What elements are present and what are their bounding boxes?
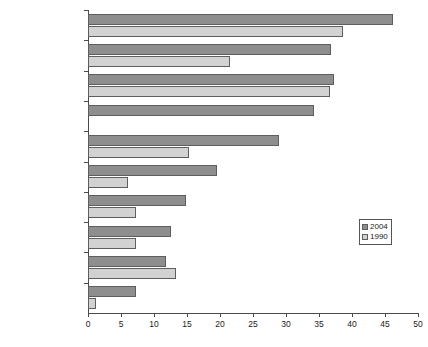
x-tick — [187, 313, 188, 317]
bar-united-states-2004 — [88, 195, 186, 206]
y-tick — [84, 71, 89, 72]
bar-spain-1990 — [88, 147, 189, 158]
legend-swatch-icon — [362, 234, 368, 240]
x-tick — [154, 313, 155, 317]
bar-italy-1990 — [88, 268, 176, 279]
bar-italy-2004 — [88, 256, 166, 267]
legend-label: 2004 — [370, 223, 388, 231]
y-tick — [84, 10, 89, 11]
legend-item-2004: 2004 — [362, 222, 388, 232]
bar-sweden-1990 — [88, 26, 343, 37]
x-tick-label: 45 — [373, 320, 397, 329]
x-tick — [88, 313, 89, 317]
bar-united-kingdom-2004 — [88, 165, 217, 176]
x-tick-label: 15 — [175, 320, 199, 329]
x-tick-label: 0 — [76, 320, 100, 329]
bar-japan-1990 — [88, 298, 96, 309]
chart-legend: 20041990 — [359, 219, 392, 245]
x-tick-label: 5 — [109, 320, 133, 329]
y-tick — [84, 252, 89, 253]
plot-area — [88, 10, 418, 313]
bar-germany-2004 — [88, 105, 314, 116]
y-tick — [84, 101, 89, 102]
bar-chart: SwedenNetherlandsNorwayGermanySpainUnite… — [0, 0, 428, 347]
x-tick — [220, 313, 221, 317]
bar-norway-2004 — [88, 74, 334, 85]
bar-united-states-1990 — [88, 207, 136, 218]
x-tick-label: 35 — [307, 320, 331, 329]
bar-norway-1990 — [88, 86, 330, 97]
x-tick — [385, 313, 386, 317]
x-tick-label: 50 — [406, 320, 428, 329]
x-tick — [352, 313, 353, 317]
legend-label: 1990 — [370, 233, 388, 241]
y-tick — [84, 222, 89, 223]
y-tick — [84, 192, 89, 193]
y-tick — [84, 283, 89, 284]
bar-netherlands-1990 — [88, 56, 230, 67]
x-tick — [418, 313, 419, 317]
bar-netherlands-2004 — [88, 44, 331, 55]
x-tick — [319, 313, 320, 317]
y-tick — [84, 162, 89, 163]
bar-sweden-2004 — [88, 14, 393, 25]
bar-japan-2004 — [88, 286, 136, 297]
bar-france-1990 — [88, 238, 136, 249]
x-tick — [121, 313, 122, 317]
x-tick-label: 20 — [208, 320, 232, 329]
bar-united-kingdom-1990 — [88, 177, 128, 188]
y-tick — [84, 131, 89, 132]
legend-swatch-icon — [362, 224, 368, 230]
y-axis-category-labels: SwedenNetherlandsNorwayGermanySpainUnite… — [0, 0, 84, 347]
x-tick-label: 40 — [340, 320, 364, 329]
legend-item-1990: 1990 — [362, 232, 388, 242]
x-tick-label: 10 — [142, 320, 166, 329]
x-tick — [286, 313, 287, 317]
x-tick-label: 25 — [241, 320, 265, 329]
bar-spain-2004 — [88, 135, 279, 146]
x-tick-label: 30 — [274, 320, 298, 329]
y-tick — [84, 40, 89, 41]
bar-france-2004 — [88, 226, 171, 237]
x-tick — [253, 313, 254, 317]
